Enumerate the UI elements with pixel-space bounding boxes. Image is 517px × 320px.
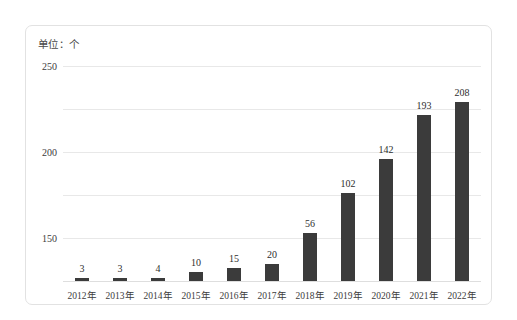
bar-group: 1422020年 [367, 66, 405, 281]
bar [455, 102, 469, 281]
bar-value-label: 4 [156, 263, 161, 274]
bar-group: 2082022年 [443, 66, 481, 281]
x-axis-tick-label: 2018年 [296, 288, 325, 302]
gridline: 0 [63, 281, 481, 282]
bar-value-label: 15 [229, 253, 239, 264]
bar [379, 159, 393, 281]
bar-group: 562018年 [291, 66, 329, 281]
x-axis-tick-label: 2016年 [220, 288, 249, 302]
x-axis-tick-label: 2019年 [334, 288, 363, 302]
bar-value-label: 3 [80, 263, 85, 274]
bar [113, 278, 127, 281]
bar-group: 102015年 [177, 66, 215, 281]
unit-label: 单位：个 [38, 36, 79, 51]
x-axis-tick-label: 2017年 [258, 288, 287, 302]
x-axis-tick-label: 2015年 [182, 288, 211, 302]
x-axis-tick-label: 2021年 [410, 288, 439, 302]
y-axis-tick-label: 250 [42, 61, 57, 72]
bar-value-label: 10 [191, 257, 201, 268]
bar-value-label: 102 [341, 178, 356, 189]
bar-group: 32012年 [63, 66, 101, 281]
bar-value-label: 208 [455, 87, 470, 98]
x-axis-tick-label: 2013年 [106, 288, 135, 302]
bar-group: 1932021年 [405, 66, 443, 281]
bar-value-label: 193 [417, 100, 432, 111]
bar-group: 32013年 [101, 66, 139, 281]
bar-group: 152016年 [215, 66, 253, 281]
bar [75, 278, 89, 281]
plot-area: 050100150200250 32012年32013年42014年102015… [63, 66, 481, 281]
bar-value-label: 3 [118, 263, 123, 274]
bar [341, 193, 355, 281]
bar [265, 264, 279, 281]
y-axis-tick-label: 200 [42, 147, 57, 158]
bar [227, 268, 241, 281]
bar-value-label: 56 [305, 218, 315, 229]
bar-group: 42014年 [139, 66, 177, 281]
bar [189, 272, 203, 281]
x-axis-tick-label: 2020年 [372, 288, 401, 302]
bar-group: 202017年 [253, 66, 291, 281]
bar [417, 115, 431, 281]
bar-value-label: 20 [267, 249, 277, 260]
bar-value-label: 142 [379, 144, 394, 155]
bar-group: 1022019年 [329, 66, 367, 281]
bar [151, 278, 165, 281]
chart-card: 单位：个 050100150200250 32012年32013年42014年1… [25, 25, 492, 305]
x-axis-tick-label: 2014年 [144, 288, 173, 302]
x-axis-tick-label: 2012年 [68, 288, 97, 302]
x-axis-tick-label: 2022年 [448, 288, 477, 302]
bar [303, 233, 317, 281]
y-axis-tick-label: 150 [42, 233, 57, 244]
